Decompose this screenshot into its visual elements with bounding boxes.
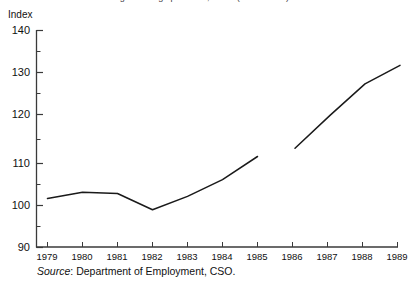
x-tick-label-1979: 1979 [30, 251, 64, 262]
x-tick-label-1989: 1989 [380, 251, 414, 262]
x-tick-label-1982: 1982 [135, 251, 169, 262]
x-tick-label-1985: 1985 [240, 251, 274, 262]
y-tick-label-90: 90 [4, 241, 30, 253]
y-tick-label-110: 110 [4, 157, 30, 169]
y-tick-label-130: 130 [4, 66, 30, 78]
x-tick-label-1986: 1986 [275, 251, 309, 262]
x-tick-label-1988: 1988 [345, 251, 379, 262]
source-value: Department of Employment, CSO. [76, 265, 235, 277]
x-axis-ticks [48, 242, 398, 247]
x-tick-label-1980: 1980 [65, 251, 99, 262]
plot-area [0, 0, 416, 284]
chart-figure: Average earnings per head, index (1979 =… [0, 0, 416, 284]
x-tick-label-1983: 1983 [170, 251, 204, 262]
x-tick-label-1981: 1981 [100, 251, 134, 262]
axis-lines [36, 30, 398, 248]
x-tick-label-1984: 1984 [205, 251, 239, 262]
source-label: Source [37, 265, 70, 277]
source-colon: : [70, 265, 73, 277]
source-note: Source: Department of Employment, CSO. [37, 265, 235, 277]
y-tick-label-120: 120 [4, 108, 30, 120]
y-tick-label-100: 100 [4, 199, 30, 211]
x-tick-label-1987: 1987 [310, 251, 344, 262]
data-series-line [48, 65, 401, 209]
y-tick-label-140: 140 [4, 24, 30, 36]
